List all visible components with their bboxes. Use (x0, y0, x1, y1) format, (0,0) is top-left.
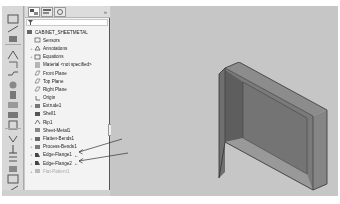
tree-item-front-plane[interactable]: Front Plane (25, 69, 110, 77)
insert-bends-icon[interactable] (7, 154, 19, 164)
tree-item-shell1[interactable]: Shell1 (25, 110, 110, 118)
extrude-icon (34, 103, 41, 109)
hem-icon[interactable] (7, 60, 19, 70)
feature-manager-panel: » CABINET_SHEETMETALSensors+Annotations+… (25, 6, 110, 190)
property-manager-icon (42, 8, 52, 16)
tree-filter-input[interactable] (26, 19, 108, 26)
tree-item-label: Flat-Pattern1 (43, 169, 70, 174)
tree-item-label: Rip1 (43, 120, 52, 125)
tree-item-top-plane[interactable]: Top Plane (25, 77, 110, 85)
no-bends-icon[interactable] (7, 134, 19, 144)
sketch-icon[interactable] (7, 14, 19, 24)
sheet-metal-icon (34, 127, 41, 133)
tree-item-flat-pattern1[interactable]: +Flat-Pattern1 (25, 167, 110, 175)
feature-tree: CABINET_SHEETMETALSensors+Annotations+Eq… (25, 28, 110, 175)
tree-item-sensors[interactable]: Sensors (25, 36, 110, 44)
tree-item-label: Edge-Flange2 (43, 161, 72, 166)
tab-configuration-manager[interactable] (54, 7, 66, 17)
callout-arrow-mark: ← (74, 152, 79, 158)
plane-icon (34, 78, 41, 84)
tree-item-label: Edge-Flange1 (43, 152, 72, 157)
tree-item-label: Top Plane (43, 79, 63, 84)
jog-icon[interactable] (7, 70, 19, 80)
callout-arrow-mark: ← (74, 160, 79, 166)
tree-item-material-not-specified[interactable]: Material <not specified> (25, 61, 110, 69)
tree-item-label: Right Plane (43, 87, 67, 92)
material-icon (34, 62, 41, 68)
tree-item-label: Shell1 (43, 111, 56, 116)
tree-item-label: Material <not specified> (43, 62, 92, 67)
configuration-manager-icon (55, 8, 65, 16)
tree-item-equations[interactable]: +Equations (25, 53, 110, 61)
tree-item-right-plane[interactable]: Right Plane (25, 85, 110, 93)
process-bends-icon (34, 144, 41, 150)
tree-item-annotations[interactable]: +Annotations (25, 44, 110, 52)
sketched-bend-icon[interactable] (7, 80, 19, 90)
miter-flange-icon[interactable] (7, 50, 19, 60)
toolbar-separator (5, 128, 21, 129)
tree-item-label: Sensors (43, 38, 60, 43)
tree-item-rip1[interactable]: Rip1 (25, 118, 110, 126)
smart-dimension-icon[interactable] (7, 24, 19, 34)
rip-icon[interactable] (7, 144, 19, 154)
annotations-icon (34, 45, 41, 51)
edge-flange-icon (34, 152, 41, 158)
tree-item-extrude1[interactable]: +Extrude1 (25, 102, 110, 110)
feature-tree-icon (29, 8, 39, 16)
tab-property-manager[interactable] (41, 7, 53, 17)
fold-icon[interactable] (7, 100, 19, 110)
extruded-cut-icon[interactable] (7, 164, 19, 174)
tree-item-label: CABINET_SHEETMETAL (35, 30, 88, 35)
tree-item-label: Process-Bends1 (43, 144, 77, 149)
tree-item-edge-flange1[interactable]: +Edge-Flange1← (25, 151, 110, 159)
tree-item-label: Equations (43, 54, 63, 59)
equations-icon (34, 54, 41, 60)
panel-tabs: » (25, 6, 110, 18)
tree-item-label: Sheet-Metal1 (43, 128, 70, 133)
tree-item-label: Origin (43, 95, 55, 100)
tree-item-sheet-metal1[interactable]: Sheet-Metal1 (25, 126, 110, 134)
tree-item-label: Flatten-Bends1 (43, 136, 74, 141)
shell-icon (34, 111, 41, 117)
base-flange-icon[interactable] (7, 34, 19, 44)
plane-icon (34, 86, 41, 92)
origin-icon (34, 95, 41, 101)
plane-icon (34, 70, 41, 76)
tree-item-label: Extrude1 (43, 103, 61, 108)
tree-root-part[interactable]: CABINET_SHEETMETAL (25, 28, 110, 36)
collapse-panel-button[interactable]: » (104, 7, 107, 17)
flat-pattern-icon (34, 168, 41, 174)
flatten-bends-icon (34, 136, 41, 142)
rip-icon (34, 119, 41, 125)
part-icon (26, 29, 33, 35)
sheet-metal-cabinet-model[interactable] (217, 62, 335, 194)
toolbar-separator (5, 44, 21, 45)
sensor-icon (34, 37, 41, 43)
command-toolbar (2, 6, 24, 196)
panel-footer (2, 190, 110, 196)
tree-item-label: Annotations (43, 46, 67, 51)
tree-item-flatten-bends1[interactable]: +Flatten-Bends1 (25, 134, 110, 142)
tree-item-label: Front Plane (43, 71, 67, 76)
tree-item-edge-flange2[interactable]: +Edge-Flange2← (25, 159, 110, 167)
unfold-icon[interactable] (7, 110, 19, 120)
closed-corner-icon[interactable] (7, 90, 19, 100)
tree-item-process-bends1[interactable]: +Process-Bends1 (25, 143, 110, 151)
tab-feature-tree[interactable] (28, 7, 40, 17)
simple-hole-icon[interactable] (7, 174, 19, 184)
tree-item-origin[interactable]: Origin (25, 94, 110, 102)
edge-flange-icon (34, 160, 41, 166)
